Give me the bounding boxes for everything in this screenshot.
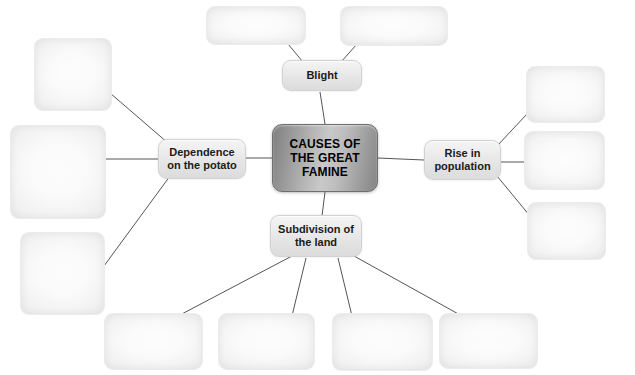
hub-node-causes-of-the-great-famine[interactable]: CAUSES OF THE GREAT FAMINE [272,124,378,192]
connector-population-to-right-1 [497,114,527,146]
connector-hub-to-blight [320,92,325,124]
mind-map-canvas: CAUSES OF THE GREAT FAMINE Blight Depend… [0,0,635,375]
blank-box-left-1[interactable] [34,38,112,111]
blank-box-right-3[interactable] [527,202,606,260]
blank-box-right-1[interactable] [526,66,605,123]
connector-subdivision-to-bottom-2 [292,258,306,316]
connector-dependence-to-left-3 [104,176,170,266]
blank-box-top-1[interactable] [206,6,306,45]
connector-subdivision-to-bottom-1 [178,256,292,316]
branch-node-blight-label: Blight [306,69,337,82]
connector-hub-to-population [378,158,424,160]
hub-node-label: CAUSES OF THE GREAT FAMINE [290,137,361,179]
branch-node-rise-in-population[interactable]: Rise in population [424,140,501,180]
blank-box-right-2[interactable] [524,131,605,190]
branch-node-population-label: Rise in population [434,147,490,173]
blank-box-bottom-1[interactable] [104,313,203,370]
blank-box-bottom-4[interactable] [439,313,538,369]
blank-box-bottom-2[interactable] [218,313,315,370]
blank-box-bottom-3[interactable] [332,313,433,371]
blank-box-left-2[interactable] [10,125,106,219]
branch-node-subdivision-label: Subdivision of the land [278,223,354,249]
connector-dependence-to-left-1 [110,93,168,143]
branch-node-subdivision-of-the-land[interactable]: Subdivision of the land [270,215,362,257]
connector-subdivision-to-bottom-3 [338,258,352,316]
connector-subdivision-to-bottom-4 [354,256,462,316]
branch-node-dependence-on-the-potato[interactable]: Dependence on the potato [158,139,246,179]
blank-box-top-2[interactable] [340,6,448,46]
connector-hub-to-subdivision [322,192,325,216]
branch-node-blight[interactable]: Blight [282,60,362,91]
branch-node-dependence-label: Dependence on the potato [167,146,237,172]
blank-box-left-3[interactable] [20,232,105,315]
